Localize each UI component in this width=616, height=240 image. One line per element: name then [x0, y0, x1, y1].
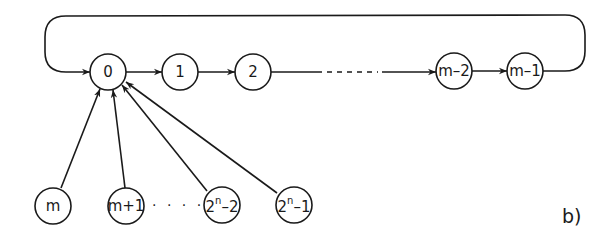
node-label: 0: [103, 63, 113, 81]
node-m: m: [35, 188, 71, 224]
feedback-loop-edge: [45, 15, 585, 72]
node-label: m: [46, 197, 61, 215]
node-label: m–2: [438, 62, 470, 80]
node-label: 2n–2: [206, 195, 239, 217]
node-2n-1: 2n–1: [276, 187, 312, 223]
node-1: 1: [162, 54, 198, 90]
node-0: 0: [90, 54, 126, 90]
node-label: 2: [248, 63, 258, 81]
node-2: 2: [235, 54, 271, 90]
edge-m+1-to-0: [113, 90, 125, 188]
node-2n-2: 2n–2: [204, 187, 240, 223]
edge-2n-1-to-0: [126, 82, 277, 193]
node-label: 1: [175, 63, 185, 81]
node-label: 2n–1: [278, 195, 311, 217]
state-transition-diagram: 0 1 2 m–2 m–1 m m+1 2n–2 2n–1 · · · · b): [0, 0, 616, 240]
node-m-2: m–2: [436, 53, 472, 89]
node-m-1: m–1: [507, 53, 543, 89]
edge-m-to-0: [61, 89, 100, 188]
node-label: m–1: [509, 62, 541, 80]
tail-ellipsis: · · · ·: [152, 197, 204, 213]
node-label: m+1: [108, 197, 145, 215]
node-m-plus-1: m+1: [108, 188, 145, 224]
panel-label: b): [562, 205, 581, 227]
edge-2n-2-to-0: [122, 85, 207, 191]
